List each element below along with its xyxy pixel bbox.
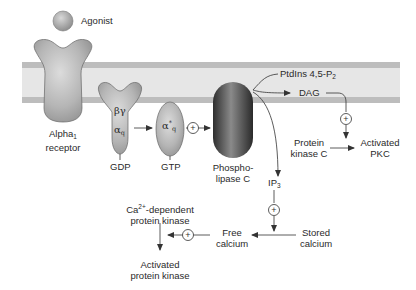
g-protein-complex bbox=[98, 82, 141, 154]
label-protein-kinase-c: Protein kinase C bbox=[288, 137, 330, 159]
label-gtp: GTP bbox=[161, 161, 181, 172]
plus-sign: + bbox=[271, 205, 276, 215]
pkc-text-line2: kinase C bbox=[288, 148, 330, 159]
ip3-subscript: 3 bbox=[277, 182, 281, 189]
plus-sign: + bbox=[190, 123, 195, 133]
receptor-text: receptor bbox=[40, 142, 86, 153]
label-gdp: GDP bbox=[110, 161, 131, 172]
label-beta-gamma: βγ bbox=[114, 105, 126, 116]
stored-calcium-text-line2: calcium bbox=[296, 238, 336, 249]
label-activated-protein-kinase: Activated protein kinase bbox=[126, 259, 194, 281]
free-calcium-text-line1: Free bbox=[212, 227, 252, 238]
label-dag: DAG bbox=[299, 87, 320, 98]
alpha-q-subscript: q bbox=[121, 129, 125, 137]
phospholipase-c-shape bbox=[213, 82, 253, 158]
stored-calcium-text-line1: Stored bbox=[296, 227, 336, 238]
alpha-text: α bbox=[114, 124, 121, 135]
plus-sign: + bbox=[185, 230, 190, 240]
label-stored-calcium: Stored calcium bbox=[296, 227, 336, 249]
ca-kinase-text-line2: protein kinase bbox=[126, 215, 194, 226]
plus-sign: + bbox=[343, 114, 348, 124]
label-alpha-q: αq bbox=[114, 124, 125, 139]
label-free-calcium: Free calcium bbox=[212, 227, 252, 249]
activated-kinase-text-line2: protein kinase bbox=[126, 270, 194, 281]
label-alpha-star-q: α*q bbox=[162, 118, 176, 135]
label-activated-pkc: Activated PKC bbox=[358, 137, 402, 159]
ca-text: Ca bbox=[126, 204, 138, 215]
plc-text-line1: Phospho- bbox=[208, 162, 258, 173]
ip3-text: IP bbox=[268, 177, 277, 188]
free-calcium-text-line2: calcium bbox=[212, 238, 252, 249]
activated-pkc-text-line2: PKC bbox=[358, 148, 402, 159]
label-agonist: Agonist bbox=[81, 15, 113, 26]
activated-pkc-text-line1: Activated bbox=[358, 137, 402, 148]
label-ca-dependent-kinase: Ca2+-dependent protein kinase bbox=[126, 201, 194, 226]
pip2-text: PtdIns 4,5-P bbox=[280, 68, 332, 79]
pkc-text-line1: Protein bbox=[288, 137, 330, 148]
alpha-star-text: α bbox=[162, 120, 169, 131]
dependent-text: -dependent bbox=[146, 204, 194, 215]
label-phospholipase-c: Phospho- lipase C bbox=[208, 162, 258, 184]
label-alpha1-receptor: Alpha1 receptor bbox=[40, 128, 86, 153]
plc-text-line2: lipase C bbox=[208, 173, 258, 184]
ca-superscript: 2+ bbox=[138, 203, 145, 210]
label-ip3: IP3 bbox=[268, 177, 281, 191]
activated-kinase-text-line1: Activated bbox=[126, 259, 194, 270]
alpha1-subscript: 1 bbox=[73, 133, 77, 140]
alpha1-text: Alpha bbox=[49, 128, 73, 139]
agonist-ball bbox=[53, 11, 73, 31]
label-pip2: PtdIns 4,5-P2 bbox=[280, 68, 336, 82]
pip2-subscript: 2 bbox=[332, 73, 336, 80]
alpha-star-subscript: q bbox=[172, 125, 176, 133]
